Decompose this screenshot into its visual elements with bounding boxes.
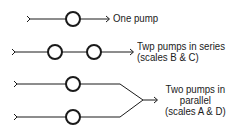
pump-icon xyxy=(66,12,80,26)
series-pumps-flow xyxy=(12,45,134,59)
label-line: (scales A & D) xyxy=(165,106,226,117)
parallel-pumps-flow xyxy=(14,77,158,124)
label-line: One pump xyxy=(113,13,158,24)
one-pump-flow xyxy=(27,12,110,26)
inlet-tail-icon xyxy=(12,49,15,55)
inlet-tail-icon xyxy=(14,114,17,120)
inlet-tail-icon xyxy=(27,16,30,22)
parallel-label: Two pumps in parallel (scales A & D) xyxy=(165,84,226,117)
inlet-tail-icon xyxy=(14,81,17,87)
pump-icon xyxy=(48,45,62,59)
label-line: (scales B & C) xyxy=(137,52,225,63)
pump-icon xyxy=(87,45,101,59)
series-label: Twp pumps in series (scales B & C) xyxy=(137,41,225,63)
one-pump-label: One pump xyxy=(113,13,158,24)
pump-icon xyxy=(66,110,80,124)
pump-icon xyxy=(66,77,80,91)
